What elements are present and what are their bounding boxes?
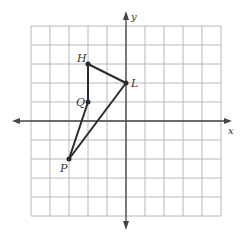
figure-points [67, 62, 129, 162]
y-axis-label: y [130, 11, 137, 22]
point-Q [86, 100, 91, 105]
x-axis-right-arrow-icon [224, 118, 232, 124]
y-axis-up-arrow-icon [123, 11, 129, 20]
coordinate-plane-diagram: xy HLQP [0, 0, 243, 246]
coordinate-plane: xy HLQP [0, 0, 243, 246]
point-L [124, 81, 129, 86]
point-P [67, 157, 72, 162]
point-label-L: L [130, 77, 138, 90]
x-axis-left-arrow-icon [12, 118, 20, 124]
y-axis-down-arrow-icon [123, 221, 129, 230]
segment-QP [69, 102, 88, 159]
point-label-Q: Q [76, 96, 85, 109]
point-label-H: H [76, 52, 87, 65]
point-label-P: P [59, 162, 68, 175]
figure-segments [69, 64, 126, 159]
x-axis-label: x [228, 125, 234, 136]
